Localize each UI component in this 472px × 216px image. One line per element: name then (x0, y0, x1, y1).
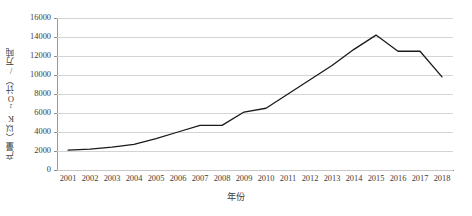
x-tick-label-2006: 2006 (170, 173, 187, 184)
x-tick-label-2011: 2011 (280, 173, 296, 184)
y-tickmark-8000 (54, 94, 57, 95)
y-tickmark-14000 (54, 37, 57, 38)
y-tickmark-10000 (54, 75, 57, 76)
x-tick-label-2015: 2015 (368, 173, 385, 184)
x-tick-label-2013: 2013 (324, 173, 341, 184)
x-axis-title: 年份 (0, 192, 472, 203)
x-tick-label-2012: 2012 (302, 173, 319, 184)
x-tick-label-2001: 2001 (60, 173, 77, 184)
x-axis-tick-labels: 2001200220032004200520062007200820092010… (57, 173, 453, 187)
x-tick-label-2016: 2016 (390, 173, 407, 184)
x-tick-label-2014: 2014 (346, 173, 363, 184)
y-tickmark-2000 (54, 151, 57, 152)
x-tick-label-2007: 2007 (192, 173, 209, 184)
y-tickmark-0 (54, 170, 57, 171)
x-tick-label-2002: 2002 (82, 173, 99, 184)
x-tick-label-2017: 2017 (412, 173, 429, 184)
y-tickmark-12000 (54, 56, 57, 57)
x-tick-label-2009: 2009 (236, 173, 253, 184)
y-tickmark-6000 (54, 113, 57, 114)
x-tick-label-2004: 2004 (126, 173, 143, 184)
x-tick-label-2005: 2005 (148, 173, 165, 184)
line-chart: 产量（以K₂O计）/万吨 020004000600080001000012000… (0, 0, 472, 216)
y-tickmark-4000 (54, 132, 57, 133)
x-tick-label-2003: 2003 (104, 173, 121, 184)
y-tickmark-16000 (54, 18, 57, 19)
x-tick-label-2018: 2018 (434, 173, 451, 184)
x-tick-label-2008: 2008 (214, 173, 231, 184)
x-tick-label-2010: 2010 (258, 173, 275, 184)
